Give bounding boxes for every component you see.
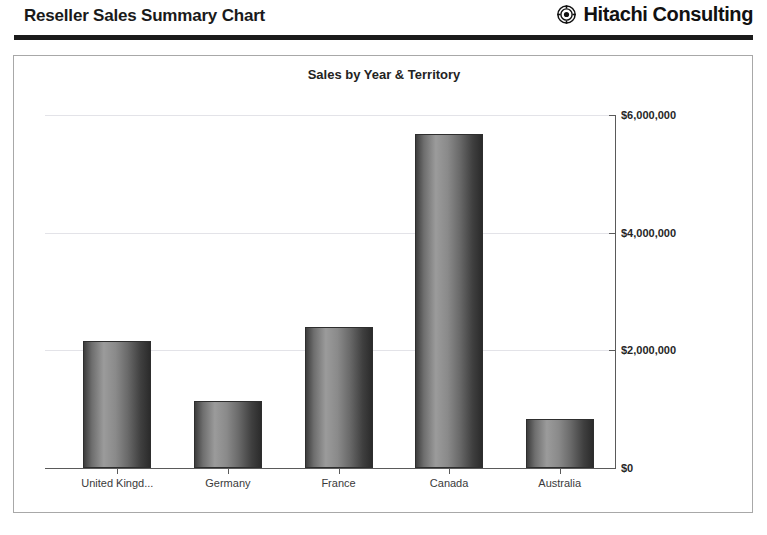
page-header: Reseller Sales Summary Chart Hitachi Con…	[0, 0, 767, 40]
x-axis-tick	[339, 468, 340, 474]
y-axis-tick	[609, 233, 616, 234]
x-axis-tick	[449, 468, 450, 474]
x-axis-label: France	[321, 477, 355, 489]
gridline	[45, 115, 615, 116]
brand-name: Hitachi Consulting	[584, 3, 753, 26]
chart-panel: Sales by Year & Territory $0$2,000,000$4…	[13, 55, 753, 513]
gridline	[45, 233, 615, 234]
bar-3[interactable]	[305, 327, 373, 468]
page-title: Reseller Sales Summary Chart	[24, 6, 265, 26]
hitachi-target-logo-icon	[557, 5, 576, 24]
x-axis-tick	[560, 468, 561, 474]
x-axis-line	[45, 468, 616, 469]
x-axis-tick	[117, 468, 118, 474]
y-axis-label: $2,000,000	[621, 344, 676, 356]
y-axis-tick	[609, 115, 616, 116]
y-axis-label: $6,000,000	[621, 109, 676, 121]
x-axis-label: Australia	[538, 477, 581, 489]
x-axis-label: Germany	[205, 477, 250, 489]
x-axis-label: Canada	[430, 477, 469, 489]
y-axis-tick	[609, 468, 616, 469]
header-divider	[14, 35, 753, 40]
bar-1[interactable]	[83, 341, 151, 468]
bar-5[interactable]	[526, 419, 594, 468]
bar-chart-plot: $0$2,000,000$4,000,000$6,000,000United K…	[14, 56, 754, 514]
y-axis-line	[615, 115, 616, 469]
x-axis-tick	[228, 468, 229, 474]
y-axis-label: $0	[621, 462, 633, 474]
y-axis-label: $4,000,000	[621, 227, 676, 239]
bar-2[interactable]	[194, 401, 262, 468]
brand-lockup: Hitachi Consulting	[557, 3, 753, 26]
y-axis-tick	[609, 350, 616, 351]
bar-4[interactable]	[415, 134, 483, 468]
x-axis-label: United Kingd...	[81, 477, 153, 489]
